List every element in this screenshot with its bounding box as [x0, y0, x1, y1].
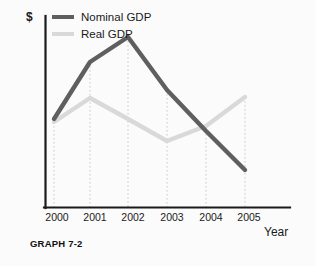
legend-item-real-gdp: Real GDP: [52, 25, 151, 42]
legend-label-real-gdp: Real GDP: [81, 28, 133, 40]
x-axis-tick-labels: 2000 2001 2002 2003 2004 2005: [0, 211, 315, 227]
x-tick-2003: 2003: [160, 211, 183, 223]
x-tick-2004: 2004: [199, 211, 222, 223]
x-tick-2002: 2002: [121, 211, 144, 223]
x-tick-2001: 2001: [83, 211, 106, 223]
legend-swatch-real-gdp: [52, 32, 74, 36]
gridlines: [54, 37, 245, 207]
figure-caption: GRAPH 7-2: [30, 238, 82, 249]
series-line-real-gdp: [54, 97, 245, 141]
legend-item-nominal-gdp: Nominal GDP: [52, 8, 151, 25]
chart-legend: Nominal GDP Real GDP: [52, 8, 151, 42]
legend-label-nominal-gdp: Nominal GDP: [81, 11, 151, 23]
x-tick-2000: 2000: [45, 211, 68, 223]
graph-figure: $ Year Nominal GDP Real GDP: [0, 0, 315, 266]
legend-swatch-nominal-gdp: [52, 15, 74, 19]
x-tick-2005: 2005: [237, 211, 260, 223]
